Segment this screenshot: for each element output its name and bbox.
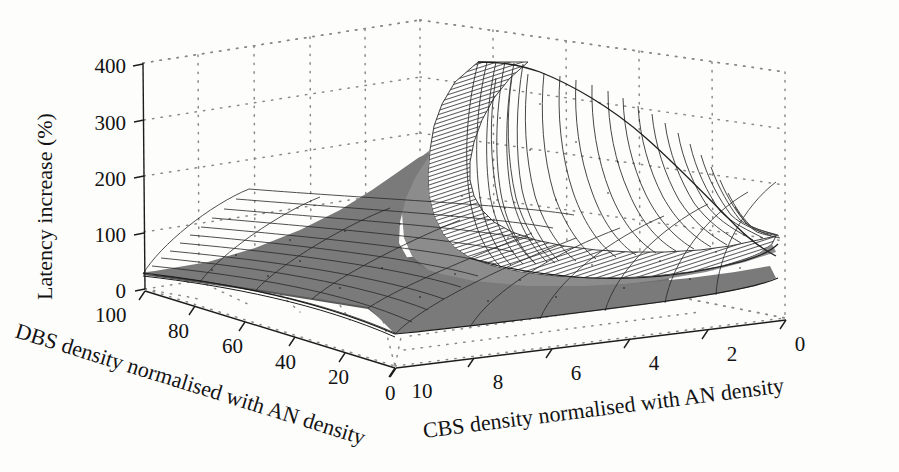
z-tick-label: 400 (95, 54, 127, 78)
z-tick-label: 300 (95, 111, 127, 135)
z-tick-label: 0 (116, 279, 127, 303)
z-axis (133, 63, 145, 291)
z-axis-title: Latency increase (%) (32, 113, 57, 300)
x-tick-label: 100 (95, 303, 127, 327)
x-tick-label: 40 (275, 350, 296, 374)
y-tick-label: 0 (795, 332, 806, 356)
latency-surface-mesh (143, 62, 780, 337)
y-tick-label: 2 (727, 342, 738, 366)
surface-plot-figure: 400 300 200 100 0 100 80 60 40 20 0 10 8… (0, 0, 899, 472)
x-tick-label: 20 (328, 365, 349, 389)
z-tick-label: 200 (95, 167, 127, 191)
x-tick-label: 0 (385, 381, 396, 405)
y-tick-label: 4 (649, 351, 660, 375)
z-tick-label: 100 (95, 223, 127, 247)
y-tick-label: 10 (412, 379, 433, 403)
x-tick-label: 60 (222, 334, 243, 358)
z-tick-labels: 400 300 200 100 0 (95, 54, 127, 303)
x-axis-title: DBS density normalised with AN density (13, 318, 369, 450)
y-tick-label: 8 (493, 370, 504, 394)
y-axis-title: CBS density normalised with AN density (421, 373, 785, 443)
x-tick-label: 80 (168, 319, 189, 343)
y-tick-label: 6 (571, 361, 582, 385)
surface-plot-canvas: 400 300 200 100 0 100 80 60 40 20 0 10 8… (0, 0, 899, 472)
